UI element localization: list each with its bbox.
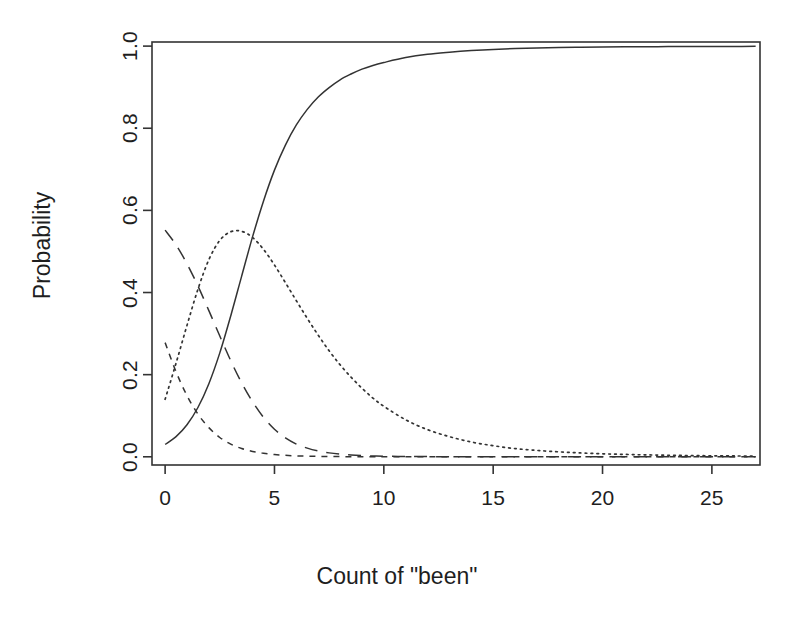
plot-border	[152, 42, 760, 465]
curve-long-dash-curve	[165, 230, 756, 457]
axis-ticks	[143, 46, 712, 474]
chart-page: Probability Count of "been" 0.00.20.40.6…	[0, 0, 794, 627]
data-curves	[165, 46, 756, 456]
curve-dotted-curve	[165, 231, 756, 457]
plot-frame	[152, 42, 760, 465]
curve-solid-curve	[165, 46, 756, 444]
plot-area	[0, 0, 794, 627]
curve-short-dash-curve	[165, 343, 756, 457]
